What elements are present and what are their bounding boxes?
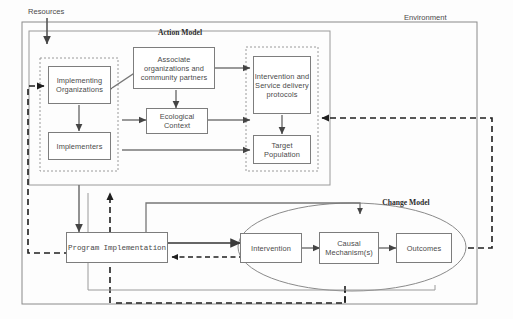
feedback-right-dashed <box>322 118 492 248</box>
node-causal-mechanisms: Causal Mechanism(s) <box>319 232 379 264</box>
node-implementing-organizations: Implementing Organizations <box>48 66 111 104</box>
node-program-implementation: Program Implementation <box>66 232 168 263</box>
node-outcomes: Outcomes <box>396 233 452 263</box>
feedback-left-dashed <box>28 86 70 253</box>
diagram-canvas: Implementing Organizations Implementers … <box>0 0 513 319</box>
node-intervention: Intervention <box>240 233 302 263</box>
node-implementers: Implementers <box>48 132 111 160</box>
node-target-population: Target Population <box>253 135 311 164</box>
node-intervention-protocols: Intervention and Service delivery protoc… <box>253 56 311 114</box>
node-ecological-context: Ecological Context <box>146 108 208 134</box>
node-associate-organizations: Associate organizations and community pa… <box>133 47 215 89</box>
